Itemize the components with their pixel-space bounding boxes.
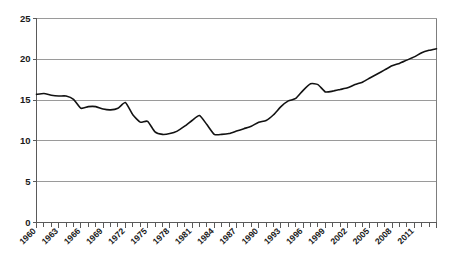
y-tick-label-5: 5 — [25, 176, 31, 187]
y-tick-label-15: 15 — [20, 94, 31, 105]
y-tick-label-20: 20 — [20, 53, 31, 64]
y-tick-label-25: 25 — [20, 13, 31, 24]
line-chart: 0510152025 19601963196619691972197519781… — [0, 0, 449, 267]
chart-container: 0510152025 19601963196619691972197519781… — [0, 0, 449, 267]
y-tick-label-10: 10 — [20, 135, 31, 146]
